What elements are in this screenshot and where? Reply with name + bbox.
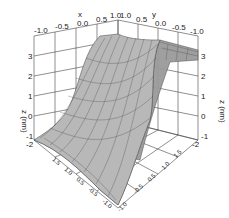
surface-plot: x -1.0 -0.5 0.0 0.5 1.0 y 1.0 0.5 0.0 -0… [0, 0, 229, 218]
x-tick: -1.0 [34, 26, 48, 35]
z-axis-label-right: z (nm) [218, 100, 227, 123]
x-tick: 0.0 [77, 19, 89, 28]
x-tick: -0.5 [55, 22, 69, 31]
y-tick: -0.5 [172, 23, 186, 32]
z-tick-right: 2 [201, 72, 206, 81]
z-tick-right: 3 [201, 52, 206, 61]
z-tick-left: 2 [28, 72, 33, 81]
z-tick-right: -2 [192, 140, 200, 149]
svg-text:0.5: 0.5 [146, 172, 157, 183]
y-tick: 1.0 [120, 11, 132, 20]
surface-plot-svg: x -1.0 -0.5 0.0 0.5 1.0 y 1.0 0.5 0.0 -0… [0, 0, 229, 218]
x-tick: 0.5 [96, 15, 108, 24]
svg-text:1.5: 1.5 [51, 156, 62, 166]
y-tick: 0.0 [155, 19, 167, 28]
surface-mesh [34, 34, 198, 205]
y-axis-label: y [152, 10, 156, 19]
y-tick: 0.5 [136, 15, 148, 24]
z-tick-right: 0 [201, 112, 206, 121]
svg-text:-0.5: -0.5 [132, 183, 144, 195]
z-tick-left: -2 [26, 140, 34, 149]
x-axis-label: x [78, 10, 82, 19]
z-tick-right: -1 [201, 132, 209, 141]
svg-text:0.5: 0.5 [75, 176, 86, 186]
svg-text:1.0: 1.0 [160, 160, 171, 171]
z-tick-left: 1 [28, 92, 33, 101]
z-tick-left: 3 [28, 52, 33, 61]
svg-text:1.5: 1.5 [172, 148, 183, 159]
z-tick-right: 1 [201, 92, 206, 101]
z-axis-label-left: z (nm) [20, 110, 29, 133]
svg-text:1.0: 1.0 [63, 166, 74, 176]
y-tick: -1.0 [190, 27, 204, 36]
